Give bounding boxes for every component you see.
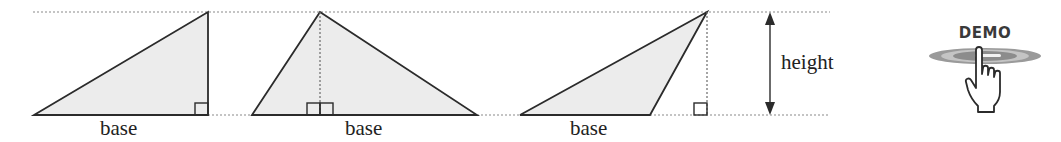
- height-label: height: [781, 52, 834, 73]
- demo-label: DEMO: [930, 24, 1040, 42]
- height-arrow: [765, 12, 775, 115]
- demo-button[interactable]: DEMO: [930, 20, 1040, 120]
- base-label-2: base: [345, 118, 382, 139]
- triangle-diagram: [0, 0, 1061, 142]
- hand-pointer-icon: [964, 44, 1004, 114]
- base-label-1: base: [100, 118, 137, 139]
- obtuse-triangle: [520, 12, 707, 115]
- base-label-3: base: [570, 118, 607, 139]
- right-triangle: [34, 12, 208, 115]
- right-angle-mark: [694, 103, 707, 115]
- acute-triangle: [252, 12, 477, 115]
